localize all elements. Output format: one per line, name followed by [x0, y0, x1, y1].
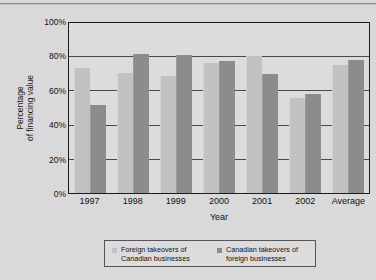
- bar-group: [283, 23, 326, 193]
- bar-2000-series2[interactable]: [219, 61, 235, 193]
- y-axis-title-line1: Percentage: [15, 75, 25, 141]
- legend-entry-foreign-takeovers: Foreign takeovers of Canadian businesses: [105, 245, 210, 263]
- legend-label-line2: foreign businesses: [226, 254, 298, 263]
- bar-group: [326, 23, 369, 193]
- y-axis-tick-label: 60%: [38, 86, 66, 96]
- bar-group: [69, 23, 112, 193]
- bar-2001-series1[interactable]: [246, 56, 262, 193]
- y-axis-tick-labels: 0%20%40%60%80%100%: [36, 22, 66, 194]
- bar-1997-series1[interactable]: [74, 68, 90, 193]
- x-axis-title: Year: [68, 212, 370, 222]
- bar-groups: [69, 23, 369, 193]
- bar-1997-series2[interactable]: [90, 105, 106, 193]
- x-axis-tick-label: Average: [327, 196, 370, 210]
- x-axis-tick-label: 2000: [197, 196, 240, 210]
- legend-label-line1: Canadian takeovers of: [226, 245, 298, 254]
- y-axis-tick-label: 0%: [38, 189, 66, 199]
- bar-group: [155, 23, 198, 193]
- bar-2002-series1[interactable]: [289, 98, 305, 193]
- bar-2001-series2[interactable]: [262, 74, 278, 193]
- bar-Average-series1[interactable]: [332, 65, 348, 193]
- bar-group: [240, 23, 283, 193]
- legend-label-line1: Foreign takeovers of: [121, 245, 190, 254]
- chart-page: Percentage of financing value 0%20%40%60…: [0, 0, 376, 280]
- bar-1999-series2[interactable]: [176, 55, 192, 193]
- bar-Average-series2[interactable]: [348, 60, 364, 193]
- x-axis-tick-label: 1998: [111, 196, 154, 210]
- y-axis-tick-label: 80%: [38, 51, 66, 61]
- chart-legend: Foreign takeovers of Canadian businesses…: [104, 240, 316, 267]
- bar-1999-series1[interactable]: [160, 76, 176, 193]
- y-axis-tick-label: 40%: [38, 120, 66, 130]
- bar-1998-series1[interactable]: [117, 73, 133, 193]
- legend-swatch-icon-light: [112, 248, 117, 253]
- bar-group: [112, 23, 155, 193]
- legend-swatch-icon-dark: [217, 248, 222, 253]
- plot-area: [68, 22, 370, 194]
- top-divider-shadow: [0, 4, 376, 5]
- bar-2002-series2[interactable]: [305, 94, 321, 193]
- x-axis-tick-label: 2001: [241, 196, 284, 210]
- y-axis-tick-label: 100%: [38, 17, 66, 27]
- legend-label-line2: Canadian businesses: [121, 254, 190, 263]
- bar-group: [198, 23, 241, 193]
- legend-entry-canadian-takeovers: Canadian takeovers of foreign businesses: [210, 245, 315, 263]
- y-axis-title: Percentage of financing value: [12, 22, 38, 194]
- y-axis-tick-label: 20%: [38, 155, 66, 165]
- bar-2000-series1[interactable]: [203, 63, 219, 193]
- x-axis-tick-labels: 199719981999200020012002Average: [68, 196, 370, 210]
- x-axis-tick-label: 1999: [154, 196, 197, 210]
- x-axis-tick-label: 1997: [68, 196, 111, 210]
- y-axis-title-line2: of financing value: [25, 75, 35, 141]
- x-axis-tick-label: 2002: [284, 196, 327, 210]
- bar-1998-series2[interactable]: [133, 54, 149, 193]
